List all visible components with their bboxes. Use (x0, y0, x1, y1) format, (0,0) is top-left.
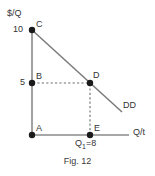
figure-container: $/Q Q/t 10 5 C B D A E DD Q1=8 Fig. 12 (0, 0, 155, 176)
x-value-annotation: Q1=8 (75, 139, 96, 150)
y-axis-label: $/Q (7, 9, 22, 18)
point-a-marker (29, 132, 35, 138)
x-value-equals: =8 (86, 138, 96, 148)
point-d-marker (87, 80, 93, 86)
figure-caption: Fig. 12 (0, 156, 155, 166)
point-label-b: B (36, 72, 42, 81)
point-label-c: C (36, 20, 43, 29)
x-value-base: Q (75, 138, 82, 148)
point-c-marker (29, 27, 35, 33)
point-label-a: A (36, 124, 42, 133)
point-label-d: D (93, 71, 100, 80)
point-label-e: E (94, 124, 100, 133)
demand-curve-dd (32, 30, 122, 112)
y-tick-label-10: 10 (13, 25, 23, 34)
point-b-marker (29, 80, 35, 86)
y-tick-label-5: 5 (20, 78, 25, 87)
curve-label-dd: DD (123, 101, 136, 110)
x-axis-label: Q/t (133, 128, 145, 137)
